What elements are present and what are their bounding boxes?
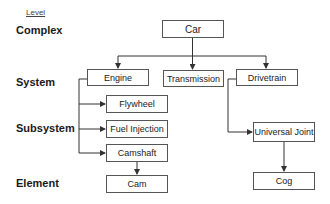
node-car: Car (162, 20, 224, 38)
node-flywheel: Flywheel (106, 95, 168, 113)
node-engine: Engine (87, 69, 149, 86)
node-camshaft: Camshaft (106, 144, 168, 162)
node-cam: Cam (106, 175, 168, 193)
node-universal-joint: Universal Joint (253, 122, 315, 142)
node-cog: Cog (253, 172, 315, 190)
node-drivetrain: Drivetrain (236, 69, 298, 86)
node-fuel-injection: Fuel Injection (106, 120, 168, 138)
node-transmission: Transmission (163, 70, 224, 87)
